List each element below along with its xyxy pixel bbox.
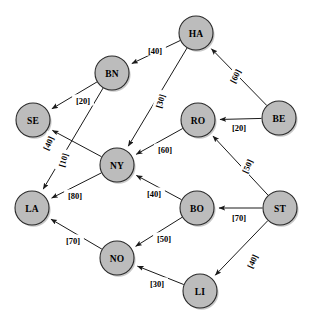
graph-node-ny[interactable]: NY bbox=[100, 148, 136, 184]
edge-labels-layer: [40][30][60][20][10][20][40][60][50][80]… bbox=[39, 45, 262, 289]
graph-node-no[interactable]: NO bbox=[100, 241, 136, 277]
edge-weight-label-no-la: [70] bbox=[62, 235, 84, 246]
graph-node-st[interactable]: ST bbox=[263, 191, 299, 227]
edge-weight-label-li-no: [30] bbox=[146, 278, 168, 289]
graph-edge-st-li bbox=[215, 221, 268, 276]
node-label-se: SE bbox=[27, 116, 39, 126]
graph-edge-st-ro bbox=[213, 136, 268, 195]
node-label-bo: BO bbox=[190, 204, 204, 214]
edge-weight-text: [30] bbox=[154, 93, 168, 110]
node-label-li: LI bbox=[195, 287, 206, 297]
node-label-be: BE bbox=[272, 114, 285, 124]
edge-weight-text: [70] bbox=[66, 236, 80, 246]
edge-weight-text: [20] bbox=[76, 96, 90, 106]
edge-weight-text: [40] bbox=[147, 189, 161, 199]
edge-weight-label-ha-ny: [30] bbox=[152, 89, 169, 113]
node-label-st: ST bbox=[274, 204, 286, 214]
edge-weight-label-st-bo: [70] bbox=[228, 212, 250, 223]
graph-node-ha[interactable]: HA bbox=[179, 16, 215, 52]
graph-edge-be-ro bbox=[220, 118, 262, 119]
edge-weight-text: [10] bbox=[57, 152, 71, 169]
edge-weight-text: [50] bbox=[157, 234, 171, 244]
node-label-bn: BN bbox=[105, 69, 119, 79]
edge-weight-label-ny-la: [80] bbox=[64, 190, 86, 201]
graph-node-li[interactable]: LI bbox=[183, 274, 219, 310]
edge-weight-label-bn-la: [10] bbox=[55, 148, 72, 172]
edge-weight-label-ro-ny: [60] bbox=[154, 144, 176, 155]
node-label-ha: HA bbox=[189, 29, 204, 39]
graph-node-ro[interactable]: RO bbox=[181, 103, 217, 139]
node-label-no: NO bbox=[110, 254, 125, 264]
graph-svg: HABNSEROBENYLABOSTNOLI [40][30][60][20][… bbox=[0, 0, 312, 325]
graph-canvas: HABNSEROBENYLABOSTNOLI [40][30][60][20][… bbox=[0, 0, 312, 325]
edge-weight-text: [80] bbox=[68, 191, 82, 201]
edge-weight-label-bn-se: [20] bbox=[72, 95, 94, 106]
edge-weight-text: [60] bbox=[158, 145, 172, 155]
node-label-ny: NY bbox=[110, 161, 124, 171]
edge-weight-text: [70] bbox=[232, 213, 246, 223]
edge-weight-label-be-ro: [20] bbox=[228, 122, 250, 133]
edge-weight-label-be-ha: [60] bbox=[225, 64, 245, 88]
edge-weight-label-ha-bn: [40] bbox=[144, 45, 166, 56]
edge-weight-text: [30] bbox=[150, 279, 164, 289]
edge-weight-text: [20] bbox=[232, 123, 246, 133]
node-label-ro: RO bbox=[191, 116, 206, 126]
graph-node-la[interactable]: LA bbox=[15, 191, 51, 227]
graph-node-bn[interactable]: BN bbox=[95, 56, 131, 92]
edge-weight-label-bo-ny: [40] bbox=[143, 188, 165, 199]
node-label-la: LA bbox=[25, 204, 39, 214]
edge-weight-label-bo-no: [50] bbox=[153, 233, 175, 244]
edge-weight-text: [40] bbox=[148, 46, 162, 56]
graph-node-be[interactable]: BE bbox=[262, 101, 298, 137]
graph-node-bo[interactable]: BO bbox=[180, 191, 216, 227]
edge-weight-label-st-li: [40] bbox=[242, 249, 261, 273]
